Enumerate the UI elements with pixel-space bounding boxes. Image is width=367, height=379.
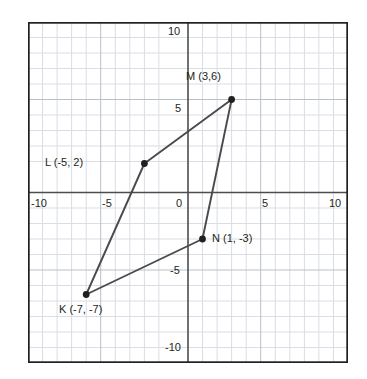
x-tick-label-5: 5 [262, 198, 268, 209]
vertex-point-m [228, 96, 235, 103]
graph-figure: -10 -5 0 5 10 10 5 -5 -10 K (-7, -7) L (… [0, 0, 367, 379]
figure-top-text [0, 0, 367, 6]
x-tick-label-neg5: -5 [102, 198, 112, 209]
x-tick-label-neg10: -10 [31, 198, 47, 209]
y-tick-label-neg5: -5 [170, 265, 180, 276]
point-label-l: L (-5, 2) [45, 157, 83, 168]
coordinate-plane: -10 -5 0 5 10 10 5 -5 -10 K (-7, -7) L (… [28, 22, 348, 363]
y-tick-label-neg10: -10 [165, 342, 181, 353]
y-tick-label-5: 5 [175, 103, 181, 114]
point-label-m: M (3,6) [186, 71, 221, 82]
point-label-k: K (-7, -7) [59, 304, 102, 315]
x-tick-label-zero: 0 [176, 198, 182, 209]
vertex-point-k [83, 291, 90, 298]
vertex-point-l [141, 160, 148, 167]
vertex-point-n [199, 236, 206, 243]
y-tick-label-10: 10 [168, 26, 180, 37]
point-label-n: N (1, -3) [212, 233, 252, 244]
x-tick-label-10: 10 [329, 198, 341, 209]
